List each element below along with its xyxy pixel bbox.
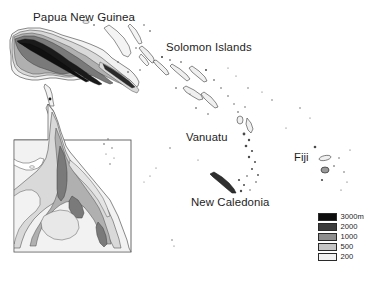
reef-islet	[105, 153, 106, 154]
ocean-islet	[169, 147, 170, 148]
legend-label-500: 500	[341, 243, 354, 251]
loyalty-islet	[246, 175, 248, 177]
vanuatu-islet	[251, 168, 253, 170]
qld-gulf-island	[30, 166, 35, 169]
loyalty-islet	[240, 190, 242, 192]
fiji-islet	[349, 149, 350, 150]
png-islet	[103, 20, 104, 21]
ocean-islet	[189, 93, 190, 94]
reef-islet	[107, 138, 108, 139]
ocean-islet	[149, 175, 150, 176]
legend-swatch-1000	[318, 233, 337, 241]
solomon-islet	[195, 107, 197, 109]
png-islet	[132, 17, 133, 18]
solomon-islet	[169, 59, 171, 61]
fiji-islet	[343, 171, 344, 172]
reef-islet	[113, 157, 114, 158]
png-islet	[117, 61, 118, 62]
fiji-islet	[333, 165, 335, 167]
vanuatu-islet	[245, 145, 248, 148]
solomon-islet	[180, 61, 182, 63]
ocean-islet	[261, 91, 262, 92]
ocean-islet	[271, 99, 272, 100]
ocean-islet	[197, 159, 198, 160]
vanuatu-island	[237, 116, 243, 124]
ocean-islet	[173, 245, 174, 246]
ocean-islet	[299, 107, 300, 108]
vanuatu-islet	[251, 150, 253, 152]
relief-map: Papua New Guinea Solomon Islands Vanuatu…	[0, 0, 381, 282]
fiji-islet	[340, 189, 341, 190]
legend-label-1000: 1000	[341, 233, 358, 241]
png-islet	[93, 24, 95, 26]
legend-swatch-500	[318, 243, 337, 251]
vanuatu-islet	[248, 156, 250, 158]
png-islet	[139, 69, 140, 70]
legend-label-3000m: 3000m	[341, 213, 364, 221]
loyalty-islet	[243, 184, 245, 186]
reef-islet	[103, 143, 105, 145]
legend-swatch-200	[318, 253, 337, 261]
solomon-islet	[175, 87, 177, 89]
vanuatu-islet	[255, 181, 257, 183]
fiji-viti-levu	[321, 167, 329, 173]
png-islet	[143, 24, 144, 25]
vanuatu-islet	[248, 139, 250, 141]
ocean-islet	[144, 182, 145, 183]
reef-islet	[111, 147, 112, 148]
vanuatu-islet	[237, 111, 239, 113]
solomon-islet	[220, 87, 221, 88]
solomon-islet	[161, 56, 163, 58]
legend-row: 500	[318, 242, 378, 251]
png-islet	[135, 47, 136, 48]
loyalty-islet	[238, 179, 240, 181]
fiji-islet	[314, 146, 317, 149]
vanuatu-islet	[254, 161, 256, 163]
ocean-islet	[227, 67, 228, 68]
ocean-islet	[285, 127, 286, 128]
png-islet	[127, 71, 129, 73]
png-islet	[149, 30, 151, 32]
solomon-islet	[213, 79, 215, 81]
cape-york-marker	[49, 98, 52, 101]
legend-row: 3000m	[318, 212, 378, 221]
solomon-islet	[227, 95, 228, 96]
reef-islet	[109, 163, 110, 164]
ocean-islet	[309, 117, 310, 118]
vanuatu-islet	[233, 103, 234, 104]
ocean-islet	[171, 239, 172, 240]
vanuatu-islet	[244, 106, 245, 107]
fiji-islet	[321, 179, 323, 181]
legend-row: 200	[318, 252, 378, 261]
fiji-islet	[338, 157, 339, 158]
solomon-islet	[205, 69, 207, 71]
ocean-islet	[155, 167, 156, 168]
solomon-islet	[207, 113, 208, 114]
legend-row: 2000	[318, 222, 378, 231]
elevation-legend: 3000m 2000 1000 500 200	[318, 212, 378, 262]
legend-swatch-3000m	[318, 213, 337, 221]
vanuatu-islet	[243, 133, 246, 136]
vanuatu-islet	[257, 174, 259, 176]
fiji-islet	[346, 181, 347, 182]
legend-row: 1000	[318, 232, 378, 241]
legend-label-2000: 2000	[341, 223, 358, 231]
ocean-islet	[235, 75, 236, 76]
png-offshore-island	[83, 21, 89, 24]
legend-label-200: 200	[341, 253, 354, 261]
legend-swatch-2000	[318, 223, 337, 231]
loyalty-islet	[249, 189, 250, 190]
png-islet	[115, 15, 116, 16]
ocean-islet	[247, 87, 248, 88]
